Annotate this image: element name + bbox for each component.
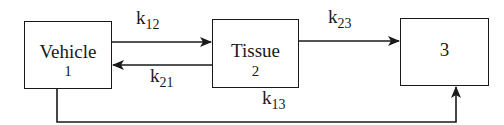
rate-k13: k13: [262, 88, 286, 115]
rate-k21: k21: [150, 66, 174, 93]
compartment-3: 3: [400, 18, 489, 86]
compartment-3-number: 3: [401, 40, 488, 60]
compartment-tissue-label: Tissue: [213, 41, 298, 61]
compartment-tissue-number: 2: [213, 63, 298, 79]
rate-k12: k12: [136, 8, 160, 35]
compartment-vehicle-number: 1: [25, 63, 111, 79]
compartment-vehicle: Vehicle 1: [24, 21, 112, 89]
compartment-tissue: Tissue 2: [212, 19, 299, 88]
compartment-vehicle-label: Vehicle: [25, 42, 111, 62]
rate-k23: k23: [328, 7, 352, 34]
arrow-k13: [57, 87, 456, 122]
